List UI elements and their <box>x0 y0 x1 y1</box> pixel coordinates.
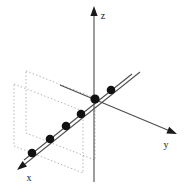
data-point <box>46 135 55 144</box>
data-point-origin <box>90 94 99 103</box>
z-axis-label: z <box>101 10 106 21</box>
data-point <box>107 86 116 95</box>
figure-root: z y x <box>0 0 194 192</box>
data-point <box>28 149 37 158</box>
x-axis-label: x <box>27 172 32 183</box>
data-point <box>77 110 86 119</box>
three-d-axes-figure: z y x <box>0 0 194 192</box>
data-point <box>62 122 71 131</box>
y-axis-label: y <box>164 139 169 150</box>
